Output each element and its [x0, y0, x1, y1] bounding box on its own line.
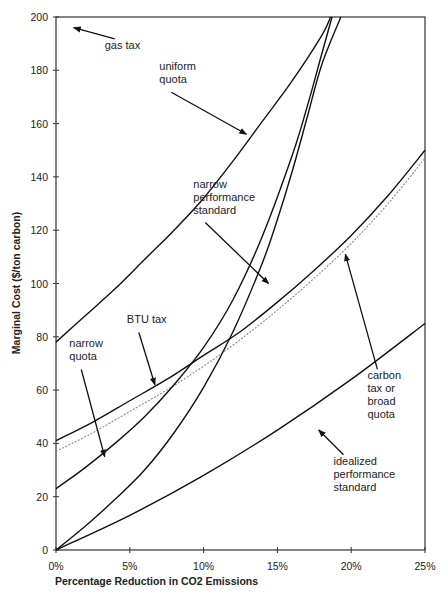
- annotation-arrow: [205, 223, 268, 284]
- marginal-cost-chart: 0%5%10%15%20%25%020406080100120140160180…: [0, 0, 448, 601]
- annotation-label: performance: [333, 468, 395, 480]
- annotation-gas-tax: gas tax: [74, 28, 141, 51]
- annotation-label: tax or: [367, 382, 395, 394]
- annotation-arrow: [139, 332, 155, 384]
- annotation-carbon-tax-or-broad-quota: carbontax orbroadquota: [345, 254, 401, 420]
- x-tick-label: 20%: [341, 560, 362, 572]
- annotation-label: performance: [193, 191, 255, 203]
- y-tick-label: 100: [30, 278, 48, 290]
- annotation-label: narrow: [193, 178, 227, 190]
- annotation-BTU-tax: BTU tax: [127, 313, 167, 384]
- annotation-arrow: [319, 430, 344, 455]
- x-tick-label: 25%: [414, 560, 435, 572]
- annotation-label: gas tax: [105, 39, 141, 51]
- annotation-narrow-performance-standard: narrowperformancestandard: [193, 178, 268, 284]
- y-tick-label: 20: [36, 491, 48, 503]
- x-tick-label: 10%: [193, 560, 214, 572]
- y-axis-title: Marginal Cost ($/ton carbon): [10, 212, 22, 354]
- annotation-idealized-performance-standard: idealizedperformancestandard: [319, 430, 396, 493]
- annotation-label: quota: [69, 350, 97, 362]
- annotations: gas taxuniformquotanarrowperformancestan…: [69, 28, 401, 493]
- y-tick-label: 40: [36, 437, 48, 449]
- y-tick-label: 80: [36, 331, 48, 343]
- annotation-label: idealized: [333, 455, 376, 467]
- y-tick-label: 120: [30, 224, 48, 236]
- y-tick-label: 160: [30, 118, 48, 130]
- annotation-label: standard: [193, 204, 236, 216]
- y-tick-label: 60: [36, 384, 48, 396]
- x-tick-label: 15%: [267, 560, 288, 572]
- annotation-label: narrow: [69, 337, 103, 349]
- annotation-label: quota: [367, 408, 395, 420]
- annotation-label: uniform: [159, 60, 196, 72]
- annotation-uniform-quota: uniformquota: [159, 60, 246, 134]
- x-tick-label: 0%: [48, 560, 63, 572]
- y-tick-label: 180: [30, 64, 48, 76]
- x-axis-title: Percentage Reduction in CO2 Emissions: [55, 575, 258, 587]
- y-tick-label: 140: [30, 171, 48, 183]
- annotation-arrow: [81, 369, 104, 456]
- annotation-label: standard: [333, 481, 376, 493]
- annotation-arrow: [74, 28, 115, 39]
- y-tick-label: 0: [42, 544, 48, 556]
- annotation-label: quota: [159, 73, 187, 85]
- series-narrow-quota: [56, 17, 332, 489]
- series-idealized-performance-standard: [56, 323, 425, 550]
- x-tick-label: 5%: [122, 560, 137, 572]
- series-narrow-performance-standard: [56, 17, 341, 550]
- annotation-label: broad: [367, 395, 395, 407]
- annotation-label: carbon: [367, 369, 401, 381]
- y-tick-label: 200: [30, 11, 48, 23]
- annotation-arrow: [345, 254, 377, 369]
- annotation-arrow: [171, 92, 246, 134]
- annotation-narrow-quota: narrowquota: [69, 337, 104, 456]
- annotation-label: BTU tax: [127, 313, 167, 325]
